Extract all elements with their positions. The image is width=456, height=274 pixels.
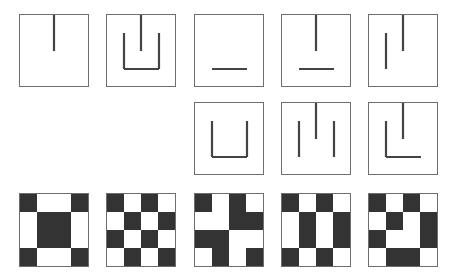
light-cell xyxy=(107,248,124,266)
dark-cell xyxy=(195,194,212,212)
light-cell xyxy=(333,194,350,212)
fig-1 xyxy=(19,14,89,87)
dark-cell xyxy=(37,230,54,248)
light-cell xyxy=(316,212,333,230)
dark-cell xyxy=(37,212,54,230)
dark-cell xyxy=(71,248,88,266)
light-cell xyxy=(386,230,403,248)
dark-cell xyxy=(333,230,350,248)
dark-cell xyxy=(420,212,437,230)
dark-cell xyxy=(107,230,124,248)
light-cell xyxy=(369,212,386,230)
light-cell xyxy=(124,194,141,212)
pattern-4 xyxy=(281,193,351,267)
light-cell xyxy=(403,230,420,248)
dark-cell xyxy=(246,212,263,230)
light-cell xyxy=(71,230,88,248)
dark-cell xyxy=(195,230,212,248)
light-cell xyxy=(420,194,437,212)
dark-cell xyxy=(333,212,350,230)
dark-cell xyxy=(107,194,124,212)
light-cell xyxy=(369,248,386,266)
light-cell xyxy=(195,248,212,266)
fig-5 xyxy=(368,14,438,87)
dark-cell xyxy=(299,212,316,230)
pattern-2 xyxy=(106,193,176,267)
dark-cell xyxy=(71,194,88,212)
dark-cell xyxy=(212,248,229,266)
dark-cell xyxy=(229,194,246,212)
pattern-5 xyxy=(368,193,438,267)
pattern-3 xyxy=(194,193,264,267)
light-cell xyxy=(229,248,246,266)
light-cell xyxy=(282,212,299,230)
dark-cell xyxy=(282,248,299,266)
fig-2 xyxy=(106,14,176,87)
light-cell xyxy=(246,194,263,212)
light-cell xyxy=(20,230,37,248)
light-cell xyxy=(195,212,212,230)
light-cell xyxy=(403,212,420,230)
light-cell xyxy=(420,248,437,266)
dark-cell xyxy=(369,230,386,248)
light-cell xyxy=(299,194,316,212)
dark-cell xyxy=(54,230,71,248)
light-cell xyxy=(158,194,175,212)
pattern-1 xyxy=(19,193,89,267)
dark-cell xyxy=(316,248,333,266)
light-cell xyxy=(54,248,71,266)
light-cell xyxy=(282,230,299,248)
dark-cell xyxy=(124,248,141,266)
light-cell xyxy=(141,248,158,266)
light-cell xyxy=(37,194,54,212)
dark-cell xyxy=(141,194,158,212)
light-cell xyxy=(212,194,229,212)
light-cell xyxy=(20,212,37,230)
fig-3 xyxy=(194,14,264,87)
light-cell xyxy=(54,194,71,212)
dark-cell xyxy=(282,194,299,212)
light-cell xyxy=(107,212,124,230)
dark-cell xyxy=(403,194,420,212)
light-cell xyxy=(71,212,88,230)
light-cell xyxy=(158,230,175,248)
dark-cell xyxy=(299,230,316,248)
dark-cell xyxy=(420,230,437,248)
light-cell xyxy=(299,248,316,266)
fig-4 xyxy=(281,14,351,87)
dark-cell xyxy=(316,194,333,212)
dark-cell xyxy=(386,212,403,230)
light-cell xyxy=(229,230,246,248)
dark-cell xyxy=(158,212,175,230)
light-cell xyxy=(212,212,229,230)
light-cell xyxy=(246,230,263,248)
dark-cell xyxy=(54,212,71,230)
light-cell xyxy=(333,248,350,266)
dark-cell xyxy=(386,248,403,266)
dark-cell xyxy=(20,194,37,212)
dark-cell xyxy=(212,230,229,248)
fig-8 xyxy=(368,102,438,175)
light-cell xyxy=(316,230,333,248)
dark-cell xyxy=(141,230,158,248)
dark-cell xyxy=(124,212,141,230)
light-cell xyxy=(124,230,141,248)
fig-6 xyxy=(194,102,264,175)
dark-cell xyxy=(369,194,386,212)
light-cell xyxy=(141,212,158,230)
dark-cell xyxy=(403,248,420,266)
dark-cell xyxy=(20,248,37,266)
dark-cell xyxy=(158,248,175,266)
light-cell xyxy=(386,194,403,212)
dark-cell xyxy=(229,212,246,230)
light-cell xyxy=(37,248,54,266)
dark-cell xyxy=(246,248,263,266)
fig-7 xyxy=(281,102,351,175)
